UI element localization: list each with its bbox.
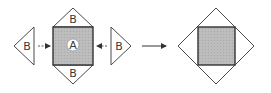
composite-square-a: B B A (53, 8, 93, 84)
triangle-b-right-label: B (115, 40, 123, 53)
result-diamond (178, 8, 254, 84)
triangle-b-top-label: B (69, 13, 77, 26)
triangle-b-bottom-label: B (69, 67, 77, 80)
triangle-b-left: B (14, 27, 34, 65)
triangle-b-left-label: B (23, 40, 31, 53)
inner-square (198, 27, 235, 65)
square-a-label: A (69, 39, 77, 52)
diagram-canvas: B B B A B (0, 0, 271, 93)
triangle-b-right: B (111, 27, 131, 65)
